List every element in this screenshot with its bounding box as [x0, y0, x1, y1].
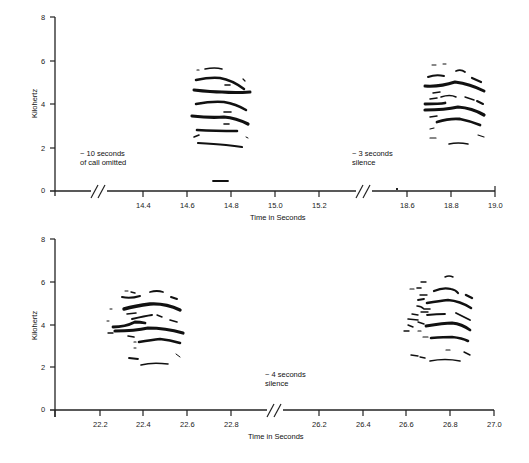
- top-x-axis-label: Time in Seconds: [250, 213, 306, 222]
- top-xtick-14.8: 14.8: [224, 201, 239, 210]
- bottom-call-2-spectrogram: [404, 276, 472, 361]
- top-annotation-omitted-line2: of call omitted: [80, 158, 126, 167]
- bottom-x-axis-label: Time in Seconds: [248, 432, 304, 441]
- top-ytick-6: 6: [41, 57, 45, 66]
- top-x-ticks: 14.4 14.6 14.8 15.0 15.2 18.6 18.8 19.0: [136, 186, 503, 210]
- bottom-xtick-26.6: 26.6: [399, 420, 414, 429]
- bottom-xtick-27.0: 27.0: [487, 420, 502, 429]
- bottom-xtick-22.2: 22.2: [93, 420, 108, 429]
- bottom-xtick-26.8: 26.8: [443, 420, 458, 429]
- bottom-xtick-22.8: 22.8: [224, 420, 239, 429]
- bottom-xtick-26.2: 26.2: [312, 420, 327, 429]
- top-ytick-4: 4: [41, 100, 45, 109]
- top-xtick-14.4: 14.4: [136, 201, 151, 210]
- top-y-axis-label: Kilohertz: [30, 89, 39, 118]
- top-xtick-14.6: 14.6: [180, 201, 195, 210]
- bottom-xtick-22.6: 22.6: [180, 420, 195, 429]
- top-axis-break-1: [91, 185, 107, 198]
- bottom-spectrogram-panel: 8 6 4 2 0 Kilohertz 22.2 22.4 22.6 22.8 …: [30, 235, 502, 441]
- top-ytick-0: 0: [41, 186, 45, 195]
- spectrogram-figure: 8 6 4 2 0 Kilohertz 14.4 14.6 14.8 15.0 …: [0, 0, 529, 463]
- top-annotation-silence-line2: silence: [352, 158, 375, 167]
- bottom-y-ticks: 8 6 4 2 0: [41, 235, 55, 414]
- top-xtick-15.0: 15.0: [268, 201, 283, 210]
- bottom-xtick-26.4: 26.4: [356, 420, 371, 429]
- top-xtick-18.8: 18.8: [444, 201, 459, 210]
- top-call-2-spectrogram: [425, 64, 484, 144]
- top-y-ticks: 8 6 4 2 0: [41, 13, 55, 195]
- top-annotation-silence-line1: ~ 3 seconds: [352, 149, 393, 158]
- bottom-ytick-2: 2: [41, 363, 45, 372]
- bottom-xtick-22.4: 22.4: [136, 420, 151, 429]
- bottom-ytick-4: 4: [41, 321, 45, 330]
- bottom-ytick-8: 8: [41, 235, 45, 244]
- bottom-y-axis-label: Kilohertz: [30, 311, 39, 340]
- bottom-axis-break: [267, 404, 283, 417]
- top-call-1-spectrogram: [192, 68, 250, 181]
- bottom-call-1-spectrogram: [107, 291, 183, 365]
- bottom-annotation-silence-line2: silence: [265, 379, 288, 388]
- bottom-annotation-silence-line1: ~ 4 seconds: [265, 370, 306, 379]
- top-xtick-19.0: 19.0: [488, 201, 503, 210]
- top-spectrogram-panel: 8 6 4 2 0 Kilohertz 14.4 14.6 14.8 15.0 …: [30, 13, 503, 222]
- top-xtick-18.6: 18.6: [400, 201, 415, 210]
- bottom-ytick-0: 0: [41, 405, 45, 414]
- bottom-ytick-6: 6: [41, 278, 45, 287]
- top-axis-break-2: [356, 185, 372, 198]
- top-xtick-15.2: 15.2: [312, 201, 327, 210]
- top-annotation-omitted-line1: ~ 10 seconds: [80, 149, 125, 158]
- top-ytick-8: 8: [41, 13, 45, 22]
- top-ytick-2: 2: [41, 144, 45, 153]
